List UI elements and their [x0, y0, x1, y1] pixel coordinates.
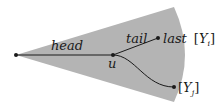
head-label: head — [51, 38, 83, 53]
tail-label: tail — [126, 31, 147, 46]
last-yi-label: last [Yi] — [163, 29, 215, 48]
yj-label: [Yj] — [178, 80, 199, 97]
u-label: u — [108, 56, 116, 71]
yj-node — [172, 85, 176, 89]
tree-diagram: head tail u last [Yi] [Yj] — [0, 0, 218, 110]
last-node — [156, 36, 160, 40]
root-node — [14, 53, 18, 57]
